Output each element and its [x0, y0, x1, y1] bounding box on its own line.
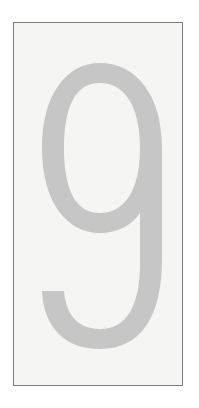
number-card: 9 — [13, 22, 183, 386]
digit-nine-glyph — [14, 23, 182, 385]
